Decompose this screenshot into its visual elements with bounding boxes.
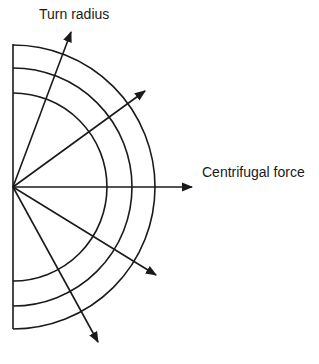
turn-radius-label: Turn radius: [39, 7, 109, 21]
centrifugal-force-label: Centrifugal force: [202, 165, 305, 179]
arrow-top: [13, 32, 71, 187]
arrows-group: [13, 32, 192, 342]
arrow-lower-right: [13, 187, 156, 275]
turn-radius-diagram: [0, 0, 319, 364]
arrow-upper-right: [13, 91, 145, 187]
arrow-bottom: [13, 187, 98, 342]
